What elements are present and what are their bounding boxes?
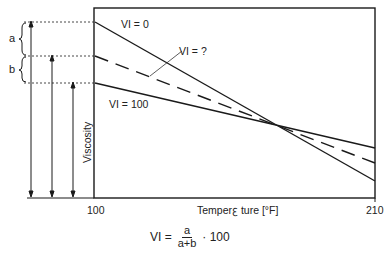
arrow-head-down-icon bbox=[29, 191, 33, 197]
leader-line-vi-unknown bbox=[150, 51, 182, 76]
viscosity-index-diagram bbox=[0, 0, 392, 260]
brace-a-icon bbox=[19, 23, 26, 55]
x-tick-210: 210 bbox=[366, 205, 384, 216]
formula-numerator: a bbox=[182, 225, 192, 238]
y-axis-label: Viscosity bbox=[81, 122, 93, 163]
arrow-head-down-icon bbox=[50, 191, 54, 197]
label-vi-unknown: VI = ? bbox=[179, 46, 207, 57]
label-vi100: VI = 100 bbox=[109, 99, 148, 110]
arrow-head-down-icon bbox=[71, 191, 75, 197]
x-tick-100: 100 bbox=[87, 205, 105, 216]
brace-b-icon bbox=[19, 57, 26, 82]
arrow-head-up-icon bbox=[71, 82, 75, 88]
brace-label-a: a bbox=[9, 33, 15, 44]
formula-multiplier: · 100 bbox=[202, 230, 229, 244]
brace-label-b: b bbox=[9, 64, 15, 75]
formula-lhs: VI = bbox=[150, 230, 172, 244]
line-vi100 bbox=[95, 83, 375, 148]
formula-fraction: a a+b bbox=[176, 225, 199, 249]
label-vi0: VI = 0 bbox=[121, 19, 149, 30]
formula-denominator: a+b bbox=[176, 238, 199, 250]
vi-formula: VI = a a+b · 100 bbox=[150, 225, 230, 249]
x-axis-label: Temperꜫ ture [°F] bbox=[197, 205, 278, 216]
